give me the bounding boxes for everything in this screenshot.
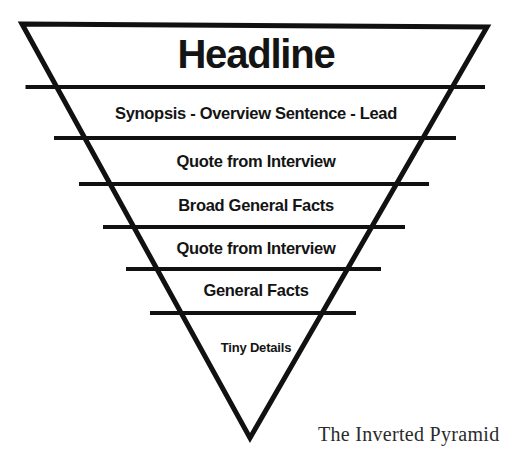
pyramid-shape xyxy=(0,0,512,469)
diagram-caption: The Inverted Pyramid xyxy=(318,424,500,444)
inverted-pyramid-diagram: Headline Synopsis - Overview Sentence - … xyxy=(0,0,512,469)
